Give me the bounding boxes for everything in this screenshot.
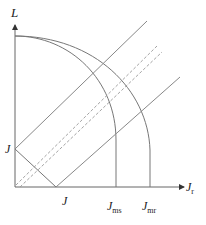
curve-jmr [15,36,150,187]
j-y-intercept-label: J [5,143,10,155]
curve-jms [15,36,116,187]
dashed-line-2 [20,52,162,187]
x-axis-label-sub: r [191,187,194,196]
j-ms-label: Jms [107,200,122,212]
x-axis-label: Jr [186,181,194,193]
y-axis-label: L [11,6,18,19]
diagram-canvas [0,0,206,225]
diagram-root: L Jr J J Jms Jmr [0,0,206,225]
j-mr-sub: mr [147,206,156,215]
j-ms-sub: ms [112,206,121,215]
j-x-intercept-label: J [62,195,67,207]
j-connector-line [15,149,56,187]
j-mr-label: Jmr [142,200,156,212]
